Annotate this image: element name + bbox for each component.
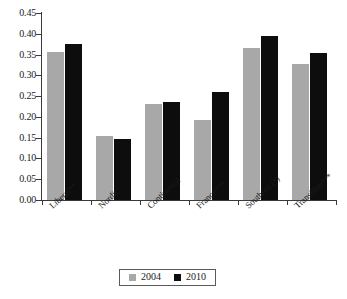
bar-2004-france (194, 120, 211, 200)
y-axis-tick-label: 0.25 (2, 91, 36, 101)
legend-item-2010: 2010 (174, 272, 206, 282)
y-axis-tick (36, 34, 41, 35)
x-axis-tick (189, 200, 190, 205)
bar-2004-liberal (47, 52, 64, 200)
x-axis-tick (42, 200, 43, 205)
bar-2010-liberal (65, 44, 82, 200)
y-axis-tick (36, 75, 41, 76)
gray-square-swatch-icon (129, 274, 136, 281)
y-axis-tick-label: 0.40 (2, 29, 36, 39)
y-axis-tick-label: 0.05 (2, 174, 36, 184)
y-axis-tick-label: 0.15 (2, 133, 36, 143)
bar-2004-continental (145, 104, 162, 200)
y-axis-tick (36, 55, 41, 56)
chart-legend: 2004 2010 (119, 269, 216, 286)
y-axis-tick-label: 0.30 (2, 70, 36, 80)
y-axis-tick-label: 0.35 (2, 50, 36, 60)
y-axis-tick (36, 13, 41, 14)
bar-2004-southern (243, 48, 260, 201)
y-axis-tick (36, 158, 41, 159)
bar-chart: 0.450.400.350.300.250.200.150.100.050.00… (0, 0, 347, 299)
y-axis-tick (36, 179, 41, 180)
y-axis-tick (36, 117, 41, 118)
plot-area (42, 13, 336, 200)
black-square-swatch-icon (174, 274, 181, 281)
bar-group (189, 13, 238, 200)
bar-group (42, 13, 91, 200)
y-axis-tick-label: 0.10 (2, 153, 36, 163)
legend-label-2010: 2010 (186, 272, 206, 282)
x-axis-tick (287, 200, 288, 205)
y-axis-tick (36, 138, 41, 139)
bar-2004-transition (292, 64, 309, 200)
x-axis-tick (336, 200, 337, 205)
y-axis-labels: 0.450.400.350.300.250.200.150.100.050.00 (0, 0, 36, 299)
legend-item-2004: 2004 (129, 272, 161, 282)
y-axis-tick (36, 200, 41, 201)
y-axis-tick-label: 0.45 (2, 8, 36, 18)
x-axis-tick (140, 200, 141, 205)
x-axis-tick (238, 200, 239, 205)
y-axis-tick (36, 96, 41, 97)
bar-group (238, 13, 287, 200)
x-axis-tick (91, 200, 92, 205)
bar-group (91, 13, 140, 200)
y-axis-tick-label: 0.20 (2, 112, 36, 122)
bar-group (140, 13, 189, 200)
y-axis-tick-label: 0.00 (2, 195, 36, 205)
legend-label-2004: 2004 (141, 272, 161, 282)
